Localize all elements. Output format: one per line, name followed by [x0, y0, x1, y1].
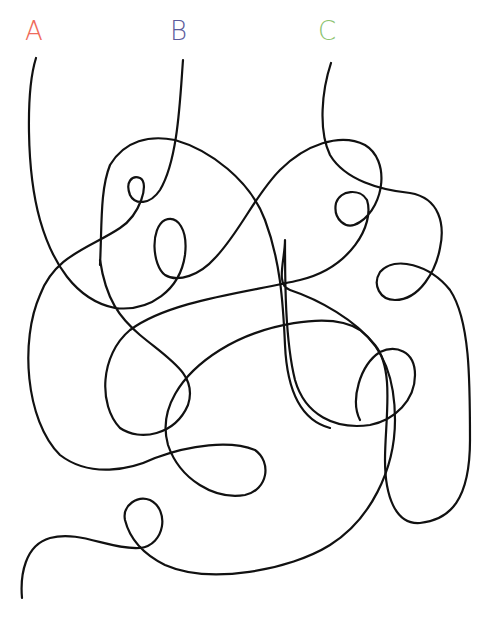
line-c[interactable]	[282, 63, 470, 523]
tangled-lines-drawing	[0, 0, 498, 622]
line-a[interactable]	[29, 58, 381, 435]
